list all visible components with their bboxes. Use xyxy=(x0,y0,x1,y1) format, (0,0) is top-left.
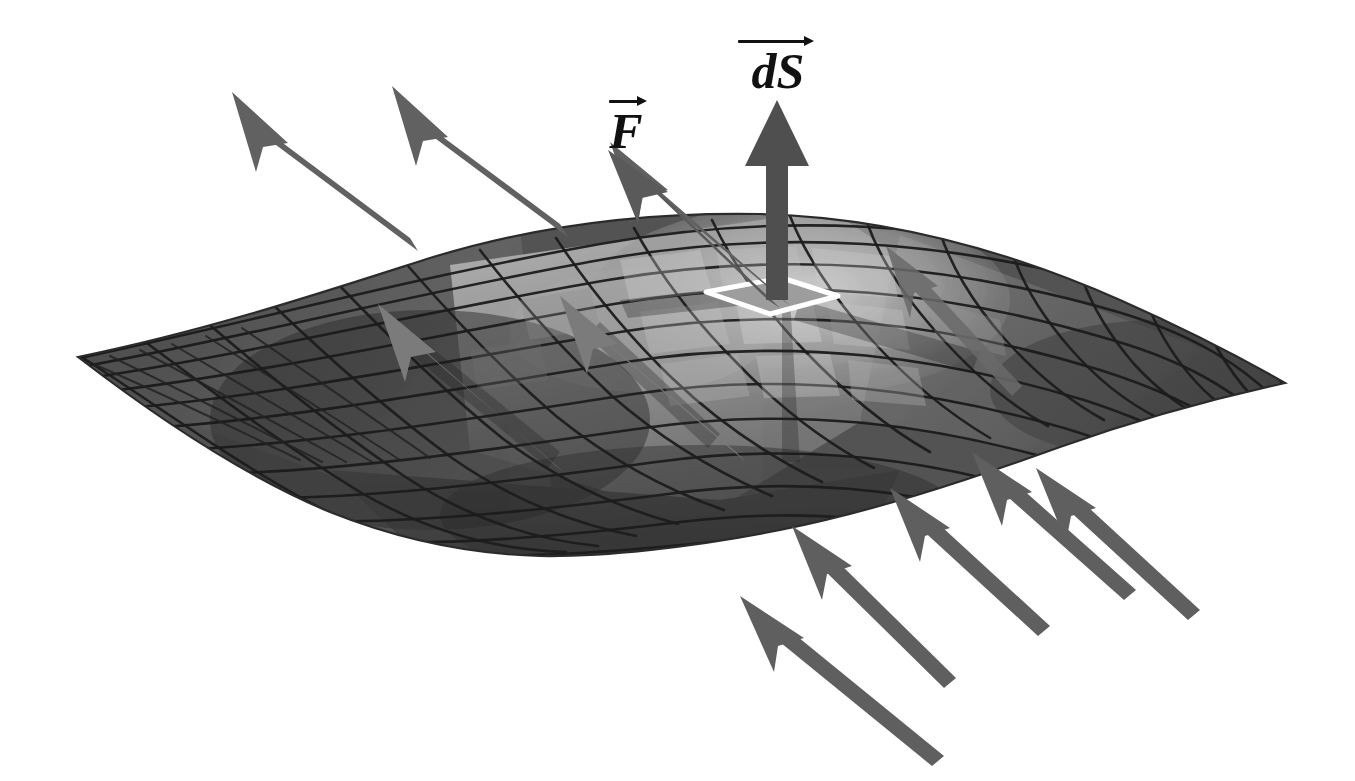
F-vector-text: F xyxy=(603,106,649,156)
flux-diagram-canvas xyxy=(0,0,1355,781)
dS-vector-arrow-accent xyxy=(738,36,818,45)
dS-vector-text: dS xyxy=(738,46,818,96)
flux-diagram-figure: dS F xyxy=(0,0,1355,781)
arrow-outgoing-1 xyxy=(232,92,418,251)
dS-vector-label: dS xyxy=(738,36,818,96)
surface-shadow-front xyxy=(440,445,960,585)
F-vector-label: F xyxy=(603,96,649,156)
mesh-surface xyxy=(60,204,1330,585)
F-vector-arrow-accent xyxy=(609,96,649,105)
arrow-incoming-4 xyxy=(1036,468,1200,620)
arrow-incoming-5 xyxy=(740,596,944,766)
arrow-outgoing-2 xyxy=(392,86,568,237)
